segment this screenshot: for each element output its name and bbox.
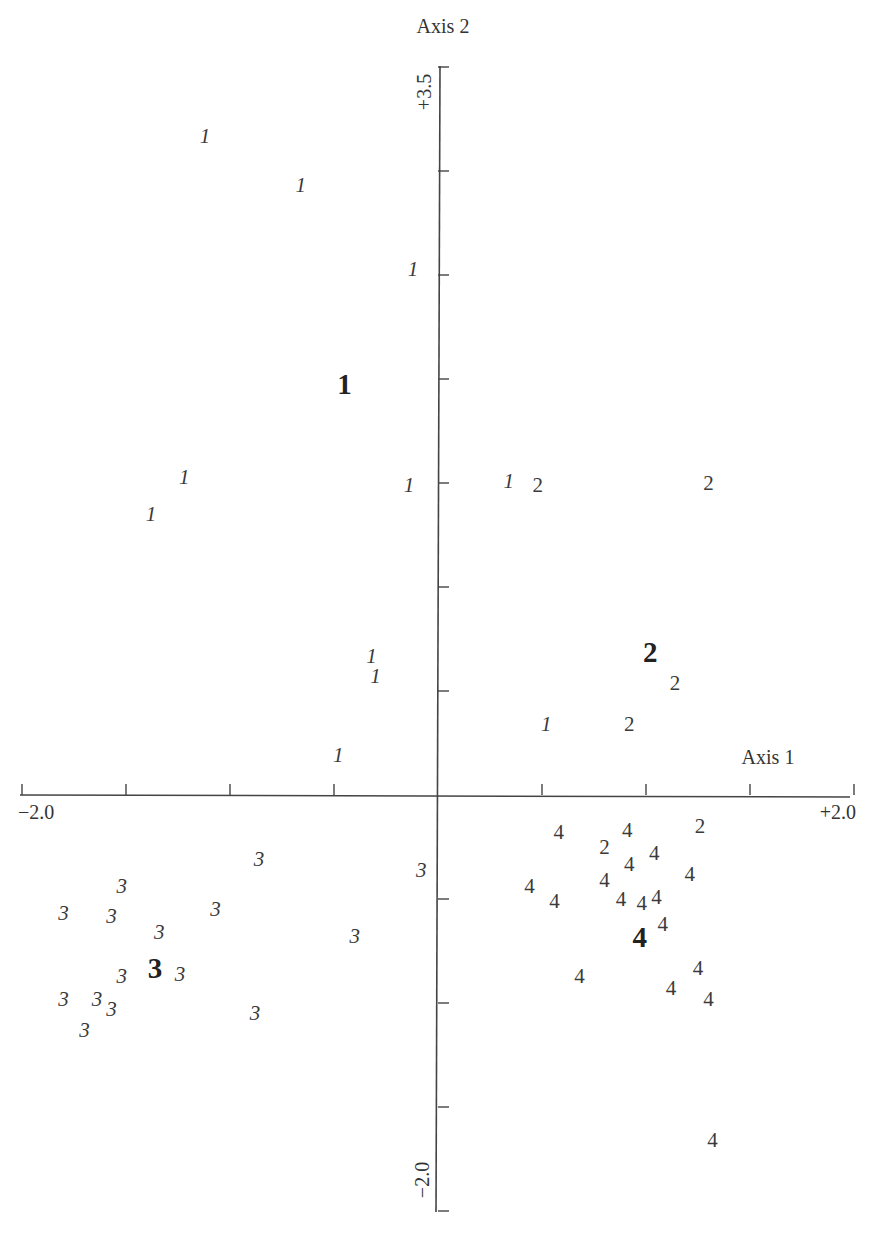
group-2-point: 2	[670, 671, 681, 695]
group-3-point: 3	[209, 897, 221, 921]
group-4-point: 4	[649, 841, 660, 865]
x-axis-max-label: +2.0	[820, 801, 856, 823]
group-1-point: 1	[179, 465, 190, 489]
group-4-point: 4	[703, 987, 714, 1011]
x-axis-line	[20, 795, 850, 797]
group-4-point: 4	[657, 912, 668, 936]
group-4-centroid: 4	[633, 921, 648, 953]
group-3-point: 3	[116, 874, 128, 898]
group-4-point: 4	[624, 852, 635, 876]
group-4-point: 4	[651, 885, 662, 909]
group-3-point: 3	[174, 962, 186, 986]
group-3-point: 3	[57, 987, 69, 1011]
group-1-point: 1	[333, 743, 344, 767]
y-axis-min-label: −2.0	[411, 1162, 433, 1198]
group-4-point: 4	[616, 887, 627, 911]
group-4-point: 4	[622, 818, 633, 842]
group-1-centroid: 1	[337, 368, 352, 400]
group-3-point: 3	[105, 997, 117, 1021]
group-4-point: 4	[693, 956, 704, 980]
group-3-point: 3	[105, 904, 117, 928]
group-2-point: 2	[624, 712, 635, 736]
group-4-point: 4	[549, 889, 560, 913]
group-3-point: 3	[57, 901, 69, 925]
x-axis-title: Axis 1	[742, 746, 795, 768]
group-1-point: 1	[541, 712, 552, 736]
group-3-point: 3	[91, 987, 103, 1011]
group-4-point: 4	[574, 964, 585, 988]
group-1-point: 1	[295, 173, 306, 197]
data-points: 1111111111112222222333333333333333344444…	[57, 124, 718, 1153]
group-1-point: 1	[408, 257, 419, 281]
x-axis-min-label: −2.0	[18, 801, 54, 823]
group-2-point: 2	[703, 471, 714, 495]
group-4-point: 4	[684, 862, 695, 886]
y-axis-max-label: +3.5	[413, 74, 435, 110]
group-4-point: 4	[637, 891, 648, 915]
group-3-point: 3	[153, 920, 165, 944]
group-4-point: 4	[524, 874, 535, 898]
group-4-point: 4	[599, 868, 610, 892]
group-2-point: 2	[599, 835, 610, 859]
group-4-point: 4	[707, 1128, 718, 1152]
y-axis-title: Axis 2	[417, 15, 470, 37]
group-2-point: 2	[533, 473, 544, 497]
group-3-point: 3	[78, 1018, 90, 1042]
group-3-point: 3	[349, 924, 361, 948]
group-2-centroid: 2	[643, 636, 658, 668]
group-2-point: 2	[695, 814, 706, 838]
group-1-point: 1	[404, 473, 415, 497]
group-1-point: 1	[370, 664, 381, 688]
group-3-centroid: 3	[148, 952, 163, 984]
group-3-point: 3	[116, 964, 128, 988]
axes	[20, 66, 854, 1212]
group-4-point: 4	[553, 820, 564, 844]
group-3-point: 3	[415, 858, 427, 882]
group-1-point: 1	[503, 469, 514, 493]
ordination-scatter-plot: Axis 2 Axis 1 −2.0 +2.0 +3.5 −2.0 111111…	[0, 0, 874, 1238]
group-1-point: 1	[146, 502, 157, 526]
group-3-point: 3	[253, 847, 265, 871]
group-1-point: 1	[200, 124, 211, 148]
y-axis-line	[436, 66, 440, 1212]
group-3-point: 3	[249, 1001, 261, 1025]
group-4-point: 4	[666, 976, 677, 1000]
